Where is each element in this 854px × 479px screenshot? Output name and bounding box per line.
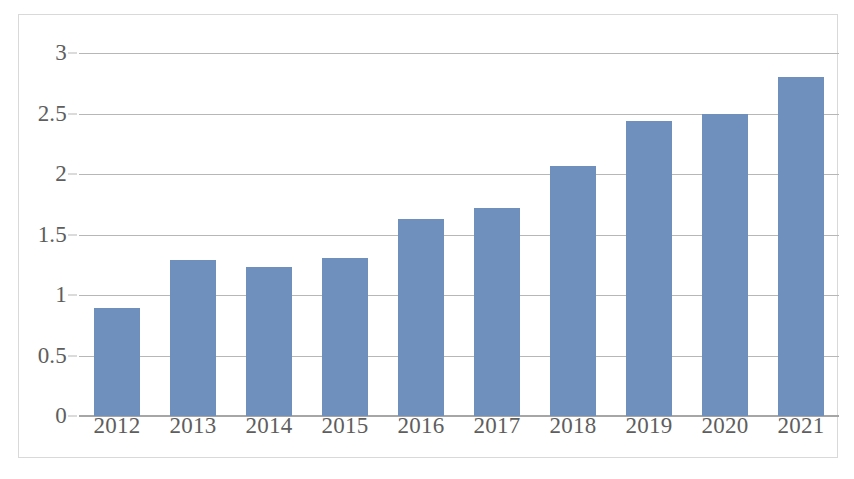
y-axis-tick-label: 0.5: [38, 343, 67, 369]
x-axis-tick-label: 2012: [79, 413, 155, 439]
bar-slot: [231, 27, 307, 405]
x-axis-tick-label: 2016: [383, 413, 459, 439]
chart-frame: 00.511.522.53 20122013201420152016201720…: [18, 14, 838, 458]
bar-slot: [763, 27, 839, 405]
bar[interactable]: [322, 258, 368, 417]
y-axis-tick-label: 2: [55, 161, 67, 187]
x-axis-tick-label: 2017: [459, 413, 535, 439]
y-axis-tick-label: 1: [55, 282, 67, 308]
bar-slot: [459, 27, 535, 405]
bars-group: [79, 27, 839, 405]
y-tick-mark: [68, 355, 77, 356]
bar[interactable]: [398, 219, 444, 416]
bar-slot: [535, 27, 611, 405]
y-tick-mark: [68, 53, 77, 54]
y-axis-tick-label: 2.5: [38, 101, 67, 127]
bar[interactable]: [170, 260, 216, 416]
x-axis-labels: 2012201320142015201620172018201920202021: [79, 413, 839, 447]
bar-slot: [687, 27, 763, 405]
bar-slot: [79, 27, 155, 405]
bar-slot: [383, 27, 459, 405]
y-axis-tick-label: 0: [55, 403, 67, 429]
bar[interactable]: [550, 166, 596, 416]
y-tick-mark: [68, 113, 77, 114]
x-axis-tick-label: 2021: [763, 413, 839, 439]
bar[interactable]: [778, 77, 824, 416]
y-tick-mark: [68, 174, 77, 175]
x-axis-tick-label: 2013: [155, 413, 231, 439]
y-tick-mark: [68, 234, 77, 235]
x-axis-tick-label: 2020: [687, 413, 763, 439]
y-axis-tick-label: 1.5: [38, 222, 67, 248]
y-axis-tick-label: 3: [55, 40, 67, 66]
y-tick-mark: [68, 295, 77, 296]
bar[interactable]: [474, 208, 520, 416]
y-tick-mark: [68, 416, 77, 417]
bar[interactable]: [702, 114, 748, 417]
bar-slot: [155, 27, 231, 405]
x-axis-tick-label: 2019: [611, 413, 687, 439]
bar-slot: [611, 27, 687, 405]
bar[interactable]: [94, 308, 140, 416]
x-axis-tick-label: 2018: [535, 413, 611, 439]
bar[interactable]: [246, 267, 292, 416]
bar-slot: [307, 27, 383, 405]
bar[interactable]: [626, 121, 672, 416]
x-axis-tick-label: 2014: [231, 413, 307, 439]
plot-area: 00.511.522.53: [79, 27, 839, 405]
x-axis-tick-label: 2015: [307, 413, 383, 439]
